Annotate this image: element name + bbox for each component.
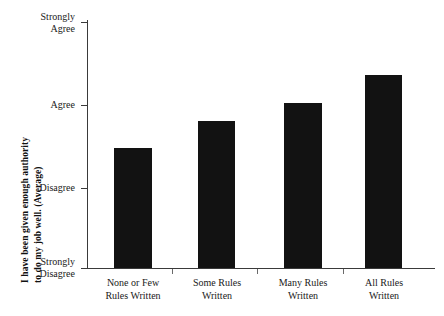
y-tick-mark-agree [81,105,87,106]
y-tick-label-agree-line-1: Agree [0,99,75,111]
bar-many-rules-written [284,103,322,268]
y-tick-label-strongly-disagree-line-2: Disagree [0,268,75,280]
y-tick-label-agree: Agree [0,99,75,111]
y-tick-label-strongly-disagree-line-1: Strongly [0,256,75,268]
y-tick-label-strongly-disagree: Strongly Disagree [0,256,75,279]
y-axis-line [87,20,88,269]
bar-some-rules-written [198,121,235,268]
x-tick-label-4-line-1: All Rules [332,276,436,289]
bar-all-rules-written [365,75,402,268]
x-tick-mark-3 [343,269,344,274]
bar-none-or-few-rules-written [114,148,152,268]
y-tick-mark-strongly-disagree [81,268,87,269]
x-tick-mark-1 [172,269,173,274]
x-tick-label-4-line-2: Written [332,289,436,302]
y-tick-mark-strongly-agree [81,22,87,23]
y-axis-title: I have been given enough authority to do… [4,0,36,290]
x-tick-mark-2 [257,269,258,274]
x-axis-line [87,268,435,269]
y-tick-label-strongly-agree-line-1: Strongly [0,11,75,23]
y-tick-mark-disagree [81,188,87,189]
bar-chart: I have been given enough authority to do… [0,0,444,316]
y-tick-label-disagree-line-1: Disagree [0,182,75,194]
x-tick-label-all-rules-written: All Rules Written [332,276,436,302]
y-tick-label-disagree: Disagree [0,182,75,194]
y-tick-label-strongly-agree-line-2: Agree [0,23,75,35]
y-tick-label-strongly-agree: Strongly Agree [0,11,75,34]
